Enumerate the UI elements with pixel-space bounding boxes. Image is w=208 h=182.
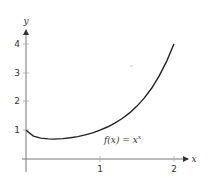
function-label: f(x) = xx (103, 133, 142, 145)
y-tick-label-1: 1 (14, 125, 20, 135)
function-curve (26, 44, 174, 139)
x-axis-label: x (191, 154, 196, 164)
x-tick-label-1: 1 (97, 164, 103, 174)
y-tick-label-2: 2 (14, 96, 20, 106)
function-label-exponent: x (138, 133, 142, 140)
function-label-base: f(x) = x (103, 135, 138, 145)
y-tick-label-3: 3 (14, 68, 20, 78)
y-axis-label: y (22, 16, 29, 26)
x-tick-label-2: 2 (171, 164, 177, 174)
y-tick-label-4: 4 (14, 39, 20, 49)
chart-canvas: 1 2 1 2 3 4 y x f(x) = xx (0, 0, 208, 182)
